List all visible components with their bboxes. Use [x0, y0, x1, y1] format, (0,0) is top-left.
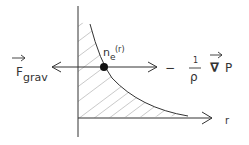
vector-arrow-icon	[210, 52, 222, 58]
svg-text:P: P	[225, 61, 232, 75]
diagram-canvas: r n e (r) F grav − 1 ρ ∇ P	[0, 0, 249, 145]
svg-text:1: 1	[193, 56, 198, 65]
svg-text:F: F	[16, 65, 23, 79]
density-point	[100, 63, 108, 71]
fgrav-label: F grav	[12, 55, 48, 84]
svg-text:n: n	[103, 46, 110, 59]
svg-text:grav: grav	[23, 71, 48, 84]
pressure-gradient-label: − 1 ρ ∇ P	[165, 52, 232, 84]
density-label: n e (r)	[103, 45, 125, 62]
svg-text:−: −	[165, 61, 175, 75]
r-axis-label: r	[225, 115, 230, 126]
vector-arrow-icon	[12, 55, 25, 61]
svg-text:∇: ∇	[210, 60, 220, 75]
svg-text:ρ: ρ	[190, 70, 198, 84]
svg-text:(r): (r)	[115, 45, 125, 54]
